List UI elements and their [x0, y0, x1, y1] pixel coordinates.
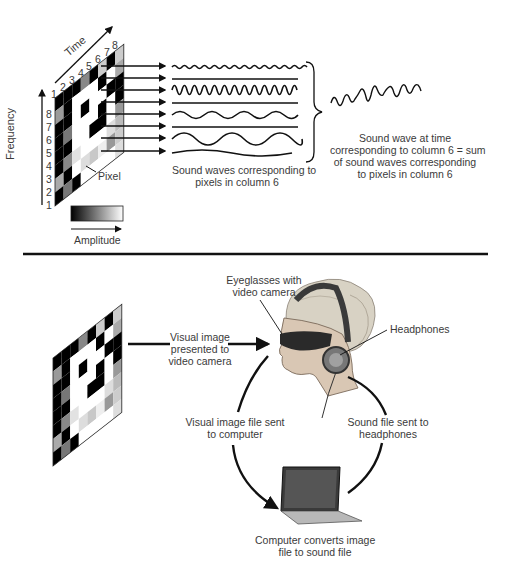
time-tick: 1: [51, 88, 57, 100]
pixel-label: Pixel: [98, 170, 121, 182]
arrow-to-computer-upper: [238, 356, 268, 412]
time-tick: 7: [104, 46, 110, 58]
headphones-label: Headphones: [390, 323, 450, 335]
pixel-grid-bottom: [53, 304, 122, 466]
sum-caption: Sound wave at time corresponding to colu…: [330, 132, 480, 180]
eyeglasses-pointer-line: [260, 300, 282, 334]
image-file-label: Visual image file sent to computer: [185, 416, 285, 440]
visual-image-label: Visual image presented to video camera: [167, 331, 233, 367]
frequency-tick: 6: [46, 134, 52, 146]
computer-label: Computer converts image file to sound fi…: [255, 534, 375, 558]
frequency-tick: 1: [46, 199, 52, 211]
frequency-tick: 8: [46, 108, 52, 120]
sum-brace: [306, 62, 322, 162]
summed-wave: [331, 85, 421, 106]
time-tick: 5: [86, 60, 92, 72]
time-tick: 6: [95, 53, 101, 65]
frequency-tick: 2: [46, 186, 52, 198]
sound-file-label: Sound file sent to headphones: [345, 416, 431, 440]
frequency-tick: 3: [46, 173, 52, 185]
head-illustration: [279, 279, 375, 418]
time-tick: 2: [60, 81, 66, 93]
arrow-from-computer: [348, 443, 382, 493]
eyeglasses-label: Eyeglasses with video camera: [224, 274, 304, 298]
frequency-axis-label: Frequency: [4, 108, 16, 160]
time-tick: 8: [112, 39, 118, 51]
amplitude-scale-bar: [71, 206, 123, 221]
frequency-tick: 4: [46, 160, 52, 172]
amplitude-label: Amplitude: [74, 234, 121, 246]
frequency-tick: 7: [46, 121, 52, 133]
component-waves: [172, 66, 307, 157]
frequency-tick: 5: [46, 147, 52, 159]
laptop-icon: [281, 467, 362, 524]
time-tick: 3: [69, 74, 75, 86]
time-tick: 4: [78, 67, 84, 79]
arrow-to-computer-lower: [233, 445, 277, 508]
waves-caption: Sound waves corresponding to pixels in c…: [172, 164, 302, 188]
